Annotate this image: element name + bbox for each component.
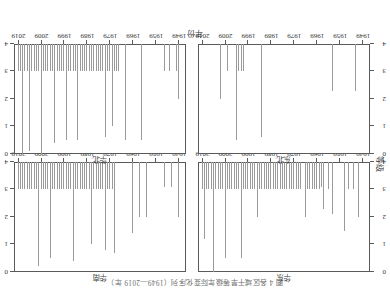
x-tick-label: 1979: [287, 32, 301, 40]
x-tick-mark: [202, 40, 203, 44]
spike-bar: [312, 162, 313, 190]
spike-bar: [86, 44, 87, 72]
spike-bar: [47, 162, 48, 190]
y-tick-label: 2: [383, 213, 387, 221]
spike-bar: [169, 44, 170, 72]
spike-bar: [213, 162, 214, 272]
y-tick-mark: [370, 189, 374, 190]
spike-bar: [20, 162, 21, 190]
spike-bar: [18, 162, 19, 190]
spike-bar: [119, 44, 120, 72]
spike-bar: [241, 162, 242, 258]
spike-bar: [47, 44, 48, 72]
spike-bar: [54, 44, 55, 143]
spike-bar: [43, 44, 44, 72]
x-tick-label: 1959: [149, 32, 163, 40]
spike-bar: [284, 162, 285, 190]
spike-bar: [91, 162, 92, 245]
panel-top-left: 华东 19491959196919791989199920092019 0123…: [198, 162, 370, 272]
spike-bar: [171, 162, 172, 187]
spike-bar: [29, 162, 30, 190]
y-tick-mark: [370, 161, 374, 162]
y-tick-label: 2: [5, 95, 9, 103]
x-tick-mark: [178, 40, 179, 44]
x-tick-label: 1949: [356, 32, 370, 40]
spike-bar: [93, 44, 94, 72]
spike-bar: [114, 162, 115, 253]
y-tick-label: 3: [383, 186, 387, 194]
spike-bar: [305, 162, 306, 217]
y-tick-mark: [10, 189, 14, 190]
spike-bar: [100, 162, 101, 190]
x-tick-mark: [225, 40, 226, 44]
spikes-bottom-left: [198, 44, 370, 154]
spike-bar: [344, 162, 345, 231]
spike-bar: [293, 162, 294, 190]
y-tick-label: 1: [383, 241, 387, 249]
spike-bar: [109, 44, 110, 72]
y-tick-mark: [370, 271, 374, 272]
y-tick-label: 3: [383, 68, 387, 76]
spike-bar: [82, 44, 83, 72]
y-tick-mark: [10, 216, 14, 217]
spike-bar: [70, 44, 71, 72]
spike-bar: [220, 44, 221, 99]
spike-bar: [24, 44, 25, 72]
spike-bar: [206, 162, 207, 190]
x-tick-label: 1999: [57, 32, 71, 40]
spike-bar: [45, 44, 46, 72]
spike-bar: [220, 162, 221, 190]
x-tick-mark: [339, 40, 340, 44]
spike-bar: [247, 162, 248, 190]
spike-bar: [43, 162, 44, 190]
spike-bar: [50, 44, 51, 72]
spike-bar: [31, 162, 32, 190]
spike-bar: [57, 44, 58, 72]
spike-bar: [358, 162, 359, 217]
spike-bar: [34, 162, 35, 190]
spike-bar: [27, 162, 28, 190]
spike-bar: [215, 162, 216, 190]
panel-bottom-right: 华北 19491959196919791989199920092019 0123…: [14, 44, 186, 154]
spike-bar: [68, 44, 69, 72]
spike-bar: [353, 162, 354, 190]
x-tick-label: 1979: [103, 32, 117, 40]
panel-top-right: 华南 19491959196919791989199920092019 0123…: [14, 162, 186, 272]
panel-title-bottom-left: 东北: [198, 154, 370, 165]
y-tick-mark: [10, 43, 14, 44]
x-tick-mark: [316, 40, 317, 44]
x-tick-label: 2009: [35, 32, 49, 40]
spike-bar: [218, 162, 219, 190]
x-tick-label: 1959: [333, 32, 347, 40]
spike-bar: [80, 44, 81, 72]
spike-bar: [112, 44, 113, 127]
x-tick-mark: [155, 40, 156, 44]
y-tick-label: 0: [5, 268, 9, 276]
x-tick-mark: [247, 40, 248, 44]
spike-bar: [289, 162, 290, 190]
spike-bar: [309, 162, 310, 190]
spike-bar: [112, 162, 113, 190]
y-tick-mark: [10, 271, 14, 272]
x-tick-mark: [270, 40, 271, 44]
panel-grid: 华东 19491959196919791989199920092019 0123…: [14, 44, 370, 272]
spike-bar: [270, 162, 271, 190]
spike-bar: [236, 162, 237, 190]
spike-bar: [348, 162, 349, 190]
x-tick-label: 1989: [264, 32, 278, 40]
spike-bar: [63, 44, 64, 72]
spike-bar: [73, 44, 74, 72]
spike-bar: [222, 162, 223, 190]
spike-bar: [266, 162, 267, 190]
spike-bar: [50, 162, 51, 258]
spike-bar: [275, 162, 276, 190]
spike-bar: [243, 44, 244, 72]
spike-bar: [250, 162, 251, 190]
spike-bar: [234, 162, 235, 190]
y-tick-label: 1: [5, 241, 9, 249]
spike-bar: [61, 44, 62, 72]
x-tick-mark: [18, 40, 19, 44]
spike-bar: [296, 162, 297, 190]
y-tick-label: 3: [5, 186, 9, 194]
spike-bar: [66, 44, 67, 140]
